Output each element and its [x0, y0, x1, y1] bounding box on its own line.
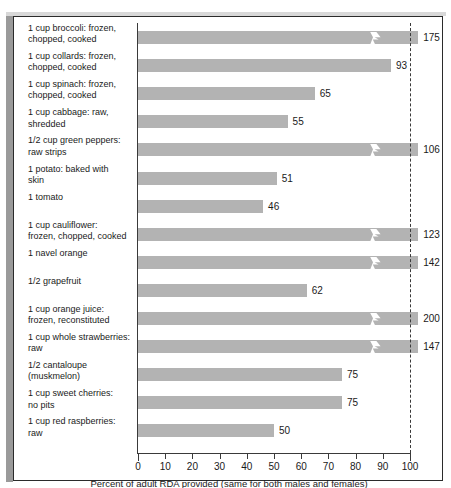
category-label: 1 cup cabbage: raw, shredded: [28, 107, 138, 129]
bar: [138, 115, 288, 128]
bar-value-label: 75: [347, 368, 358, 381]
x-tick: [274, 453, 275, 459]
bar: [138, 368, 342, 381]
bar-value-label: 106: [423, 143, 440, 156]
bar: [138, 424, 274, 437]
category-label: 1 cup red raspberries: raw: [28, 416, 138, 438]
bar-value-label: 93: [396, 59, 407, 72]
x-tick: [192, 453, 193, 459]
bar-value-label: 62: [312, 284, 323, 297]
category-label: 1 navel orange: [28, 248, 138, 259]
bar-value-label: 46: [268, 200, 279, 213]
bar: [138, 87, 315, 100]
bar-value-label: 50: [279, 424, 290, 437]
x-tick: [410, 453, 411, 461]
category-label: 1 cup collards: frozen, chopped, cooked: [28, 51, 138, 73]
category-label: 1 potato: baked with skin: [28, 164, 138, 186]
bar-value-label: 65: [320, 87, 331, 100]
x-tick: [328, 453, 329, 459]
category-label: 1 cup spinach: frozen, chopped, cooked: [28, 79, 138, 101]
category-label: 1/2 cantaloupe (muskmelon): [28, 360, 138, 382]
bar-value-label: 75: [347, 396, 358, 409]
x-tick: [301, 453, 302, 459]
bar: [138, 172, 277, 185]
bar: [138, 200, 263, 213]
x-tick: [220, 453, 221, 459]
bar: [138, 31, 418, 44]
plot-area: 1 cup broccoli: frozen, chopped, cooked1…: [14, 17, 444, 482]
bar-value-label: 51: [282, 172, 293, 185]
bar: [138, 396, 342, 409]
bar: [138, 256, 418, 269]
bar-value-label: 123: [423, 228, 440, 241]
category-label: 1 cup whole strawberries: raw: [28, 332, 138, 354]
category-label: 1 cup cauliflower: frozen, chopped, cook…: [28, 220, 138, 242]
chart-panel: 1 cup broccoli: frozen, chopped, cooked1…: [13, 16, 443, 481]
bar-value-label: 175: [423, 31, 440, 44]
x-tick: [247, 453, 248, 459]
bar: [138, 143, 418, 156]
x-axis-label: Percent of adult RDA provided (same for …: [14, 478, 444, 488]
bar-value-label: 142: [423, 256, 440, 269]
category-label: 1 tomato: [28, 192, 138, 203]
figure-container: 1 cup broccoli: frozen, chopped, cooked1…: [0, 0, 451, 488]
category-label: 1 cup broccoli: frozen, chopped, cooked: [28, 23, 138, 45]
bar: [138, 59, 391, 72]
x-tick: [138, 453, 139, 461]
category-label: 1 cup sweet cherries: no pits: [28, 388, 138, 410]
bar: [138, 284, 307, 297]
category-label: 1/2 cup green peppers: raw strips: [28, 135, 138, 157]
bar-value-label: 200: [423, 312, 440, 325]
x-tick: [356, 453, 357, 459]
figure-shadow-left: [6, 12, 13, 482]
bar-value-label: 55: [293, 115, 304, 128]
reference-line-100: [410, 23, 411, 453]
bar-value-label: 147: [423, 340, 440, 353]
category-label: 1 cup orange juice: frozen, reconstitute…: [28, 304, 138, 326]
x-tick-label: 100: [390, 461, 430, 473]
x-tick: [165, 453, 166, 459]
bar: [138, 340, 418, 353]
bar: [138, 228, 418, 241]
x-tick: [383, 453, 384, 459]
bar: [138, 312, 418, 325]
category-label: 1/2 grapefruit: [28, 276, 138, 287]
